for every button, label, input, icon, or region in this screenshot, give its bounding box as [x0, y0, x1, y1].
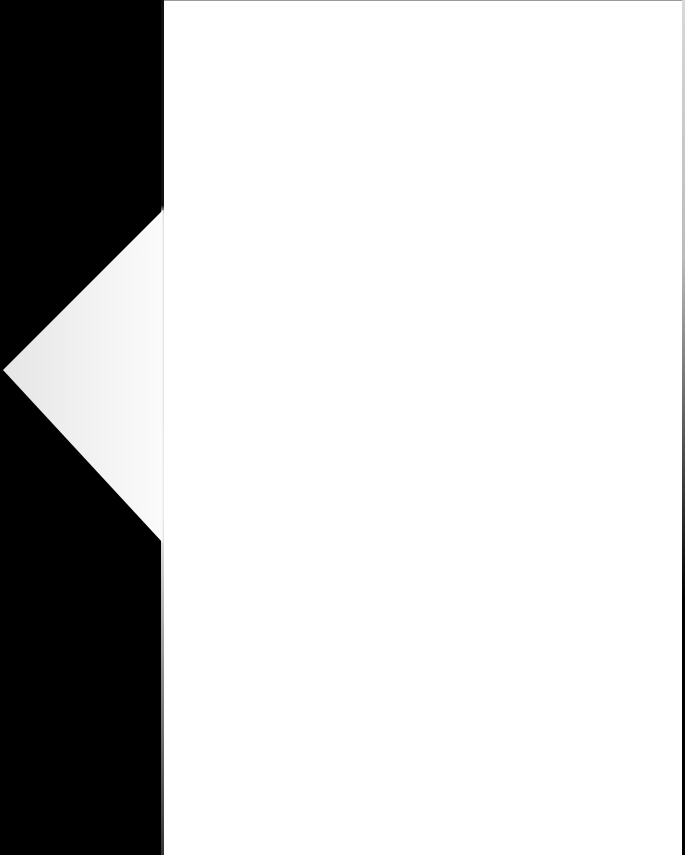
- scan-background: [0, 0, 685, 855]
- page-left-edge: [161, 0, 164, 855]
- fold-triangle: [3, 210, 163, 543]
- blank-page: [163, 0, 682, 855]
